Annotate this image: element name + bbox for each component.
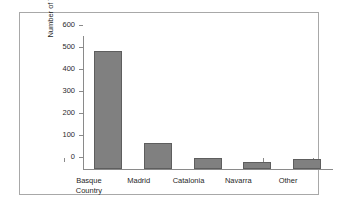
y-axis-tick-label: 200	[62, 108, 75, 117]
y-axis-title: Number of Victims	[46, 0, 55, 55]
x-axis-category-label: Catalonia	[164, 176, 214, 186]
y-axis-tick-label: 300	[62, 86, 75, 95]
y-axis-tick-label: 400	[62, 64, 75, 73]
y-axis-tick-mark	[79, 25, 83, 26]
bar	[293, 159, 321, 169]
x-axis-category-label: Navarra	[213, 176, 263, 186]
y-axis-tick-label: 100	[62, 130, 75, 139]
x-axis-tick-mark	[64, 158, 65, 162]
x-axis-category-label: Basque Country	[64, 176, 114, 195]
y-axis-tick: 600	[79, 25, 83, 26]
x-axis-category-label: Other	[263, 176, 313, 186]
y-axis-tick-label: 500	[62, 42, 75, 51]
chart-figure: Number of Victims 0100200300400500600 Ba…	[0, 0, 339, 210]
bar	[94, 51, 122, 169]
bar	[144, 143, 172, 169]
x-axis-line	[83, 169, 333, 170]
bar	[194, 158, 222, 169]
bar	[243, 162, 271, 169]
y-axis-tick-label: 0	[71, 152, 75, 161]
chart-frame: Number of Victims 0100200300400500600 Ba…	[19, 12, 319, 195]
plot-area	[83, 37, 332, 169]
x-axis-category-label: Madrid	[114, 176, 164, 186]
y-axis-tick-label: 600	[62, 20, 75, 29]
